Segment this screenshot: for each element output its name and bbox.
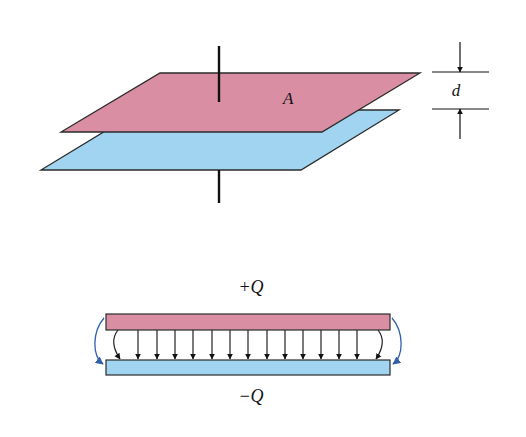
separation-dimension: d bbox=[432, 42, 489, 139]
electric-field-lines bbox=[114, 330, 383, 359]
fringe-arrow-icon bbox=[95, 318, 104, 364]
field-side-view: +Q −Q bbox=[95, 277, 401, 406]
positive-plate bbox=[106, 314, 390, 330]
fringe-arrow-icon bbox=[376, 330, 382, 359]
fringe-arrow-icon bbox=[114, 330, 120, 359]
fringe-arrow-icon bbox=[392, 318, 401, 364]
negative-plate bbox=[106, 360, 390, 375]
separation-label: d bbox=[452, 81, 461, 100]
positive-charge-label: +Q bbox=[238, 277, 263, 297]
parallel-plate-perspective: A d bbox=[41, 42, 489, 203]
area-label: A bbox=[282, 89, 294, 108]
negative-charge-label: −Q bbox=[238, 386, 263, 406]
capacitor-diagram: A d +Q −Q bbox=[0, 0, 526, 437]
